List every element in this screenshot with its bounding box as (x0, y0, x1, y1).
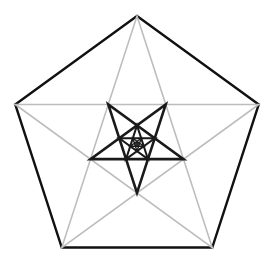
nested-pentagram-diagram (0, 0, 268, 260)
gray-pentagram-lines (15, 16, 258, 248)
outer-pentagram-gray (15, 16, 258, 248)
